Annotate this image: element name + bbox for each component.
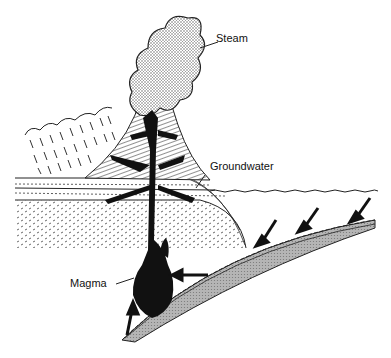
rain-cloud xyxy=(25,107,112,135)
label-magma: Magma xyxy=(70,277,107,289)
water-surface xyxy=(210,190,378,192)
label-groundwater: Groundwater xyxy=(210,160,274,172)
volcano-diagram xyxy=(0,0,391,358)
label-steam: Steam xyxy=(216,32,248,44)
sediment-layer xyxy=(15,200,245,248)
steam-cloud xyxy=(130,16,205,115)
